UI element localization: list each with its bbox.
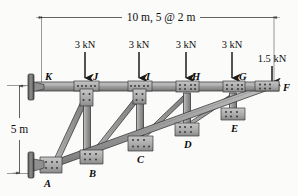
truss-diagram: 10 m, 5 @ 2 m 5 m 3 kN 3 kN 3 kN 3 kN 1.… xyxy=(0,0,298,196)
joint-label-F: F xyxy=(282,82,290,93)
joint-label-E: E xyxy=(230,123,238,134)
joint-label-G: G xyxy=(239,71,247,82)
gusset-F xyxy=(255,81,279,91)
joint-label-H: H xyxy=(191,71,201,82)
load-J-label: 3 kN xyxy=(75,39,96,50)
gusset-C xyxy=(128,136,153,151)
load-G-label: 3 kN xyxy=(222,39,243,50)
joint-label-A: A xyxy=(43,178,51,189)
span-dimension-label: 10 m, 5 @ 2 m xyxy=(127,11,196,24)
gusset-H xyxy=(176,81,199,92)
joint-label-D: D xyxy=(183,139,192,150)
gusset-B xyxy=(80,150,103,164)
gusset-E xyxy=(221,108,245,120)
joint-label-K: K xyxy=(44,71,53,82)
load-F-label: 1.5 kN xyxy=(258,53,287,64)
gusset-G xyxy=(223,81,245,92)
joint-label-B: B xyxy=(88,168,96,179)
load-H-label: 3 kN xyxy=(176,39,197,50)
gusset-D xyxy=(175,123,199,136)
load-I-label: 3 kN xyxy=(129,39,150,50)
height-dimension-label: 5 m xyxy=(11,123,29,135)
joint-label-C: C xyxy=(137,154,145,165)
joint-label-J: J xyxy=(92,71,99,82)
